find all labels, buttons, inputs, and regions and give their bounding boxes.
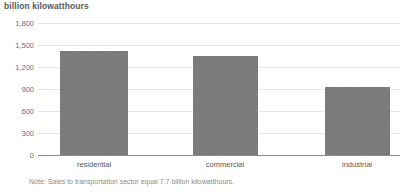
y-axis-tick-labels: 1,800 1,500 1,200 900 600 300 0 — [0, 0, 34, 192]
bar-industrial[interactable] — [325, 87, 390, 155]
y-tick-label: 1,500 — [0, 41, 34, 50]
bar-commercial[interactable] — [193, 56, 258, 155]
bar-chart: billion kilowatthours 1,800 1,500 1,200 … — [0, 0, 414, 192]
y-tick-label: 300 — [0, 129, 34, 138]
y-tick-label: 900 — [0, 85, 34, 94]
category-label-residential: residential — [77, 160, 111, 169]
y-tick-label: 600 — [0, 107, 34, 116]
category-label-industrial: industrial — [342, 160, 372, 169]
y-tick-label: 1,200 — [0, 63, 34, 72]
bars-layer — [38, 23, 400, 155]
y-tick-label: 1,800 — [0, 19, 34, 28]
bar-residential[interactable] — [60, 51, 128, 155]
chart-footnote: Note: Sales to transportation sector equ… — [29, 178, 234, 185]
category-label-commercial: commercial — [206, 160, 244, 169]
x-axis-line — [38, 155, 400, 156]
y-tick-label: 0 — [0, 151, 34, 160]
